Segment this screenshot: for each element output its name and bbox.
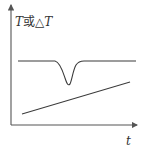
y-var2: T	[44, 15, 52, 29]
x-axis-label: t	[126, 134, 131, 148]
y-axis-label: T或△T	[15, 12, 52, 29]
dip-curve	[18, 61, 136, 85]
y-var: T	[15, 15, 23, 29]
y-connector: 或	[23, 15, 35, 29]
rising-line	[22, 82, 130, 114]
delta-symbol: △	[35, 15, 44, 29]
